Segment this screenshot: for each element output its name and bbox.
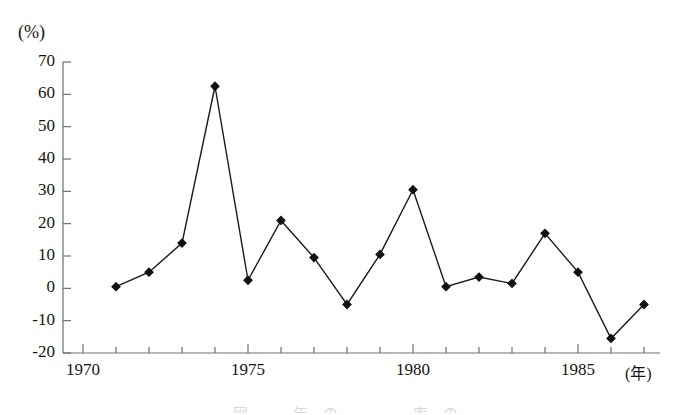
data-point-marker <box>244 276 252 284</box>
x-axis-tick-marks <box>83 344 644 353</box>
data-point-marker <box>475 273 483 281</box>
data-point-markers <box>112 82 648 342</box>
y-axis-tick-marks <box>63 62 71 353</box>
plot-area <box>0 0 684 415</box>
data-point-marker <box>112 283 120 291</box>
data-point-marker <box>442 283 450 291</box>
data-point-marker <box>409 186 417 194</box>
data-point-marker <box>376 250 384 258</box>
data-point-marker <box>508 279 516 287</box>
chart-page: (%) (年) 706050403020100-10-20 1970197519… <box>0 0 684 415</box>
line-chart-figure: (%) (年) 706050403020100-10-20 1970197519… <box>0 0 684 415</box>
data-point-marker <box>211 82 219 90</box>
figure-caption-partial: 図 年 の 率 の <box>120 402 570 413</box>
data-series-line <box>116 86 644 338</box>
axis-lines <box>63 62 660 353</box>
